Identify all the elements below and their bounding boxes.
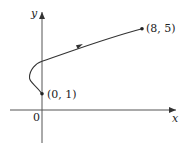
x-axis-label: x xyxy=(172,112,179,125)
start-point-label: (0, 1) xyxy=(47,88,77,101)
y-axis-label: y xyxy=(30,7,38,20)
end-point-marker xyxy=(140,27,144,31)
end-point-label: (8, 5) xyxy=(146,22,176,35)
parametric-curve xyxy=(29,29,142,94)
diagram-canvas: y x 0 (0, 1) (8, 5) xyxy=(0,0,188,152)
start-point-marker xyxy=(40,92,44,96)
origin-label: 0 xyxy=(33,111,40,124)
